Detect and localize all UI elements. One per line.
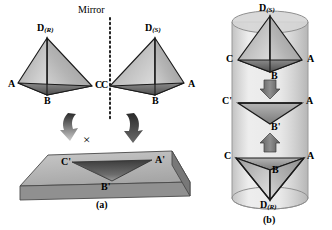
curved-arrow-right-shape [124,113,143,143]
panel-b-top-apex-label: D(S) [259,3,275,14]
slab-vertex-bottom: B' [101,182,110,192]
tetrahedron-S-apex-label: D(S) [145,23,161,34]
tetrahedron-S-vertex-left: C [101,80,108,90]
tetrahedron-S-vertex-bottom: B [152,96,159,106]
panel-b-middle-vertex-right: A [306,96,313,106]
tetrahedron-R-vertex-bottom: B [44,96,51,106]
apex-subscript: (S) [266,6,275,14]
panel-b-middle-vertex-bottom: B' [271,122,280,132]
blocked-cross-icon: × [83,132,90,148]
tetrahedron-R-shape [18,38,92,95]
tetrahedron-R-apex-label: D(R) [37,23,54,34]
curved-arrow-left-shape [60,113,78,141]
figure-graphics [0,0,332,230]
slab-vertex-left: C' [61,157,71,167]
panel-b-top-vertex-right: A [307,54,314,64]
slab-vertex-right: A' [155,155,165,165]
panel-b-bottom-apex-label: D(R) [260,200,277,211]
panel-b-top-vertex-bottom: B [271,71,278,81]
panel-b-bottom-vertex-right: A [307,151,314,161]
panel-b-bottom-vertex-left: C [224,151,231,161]
tetrahedron-S-shape [110,38,184,95]
panel-b-bottom-vertex-center: B [272,165,279,175]
panel-b-caption: (b) [263,214,275,225]
tetrahedron-R-vertex-left: A [8,79,15,89]
apex-subscript: (R) [267,203,276,211]
chirality-figure: Mirror D(R) A C B D(S) C A B × C' A' B' … [0,0,332,230]
mirror-label: Mirror [78,4,105,15]
tetrahedron-S-vertex-right: A [188,79,195,89]
panel-a-caption: (a) [96,199,108,210]
panel-b-middle-vertex-left: C' [222,96,232,106]
panel-b-top-vertex-left: C [226,54,233,64]
apex-subscript: (S) [152,26,161,34]
apex-subscript: (R) [44,26,53,34]
